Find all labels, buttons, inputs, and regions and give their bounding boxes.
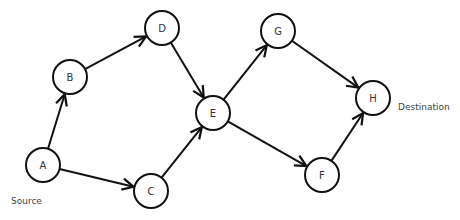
source-label: Source <box>11 196 42 206</box>
svg-text:D: D <box>158 23 166 34</box>
nodes-layer: ABCDEFGH <box>26 11 390 208</box>
svg-text:G: G <box>274 26 282 37</box>
edge-g-h <box>292 41 358 88</box>
node-a: A <box>26 148 60 182</box>
edge-a-b <box>48 94 65 149</box>
edge-e-g <box>224 45 267 100</box>
node-e: E <box>196 96 230 130</box>
edge-d-e <box>171 43 204 98</box>
graph-canvas: ABCDEFGH <box>0 0 460 220</box>
edge-f-h <box>331 113 363 161</box>
node-g: G <box>261 14 295 48</box>
edge-c-e <box>162 127 202 178</box>
edge-e-f <box>228 121 307 166</box>
node-b: B <box>53 60 87 94</box>
node-c: C <box>134 174 168 208</box>
edge-a-c <box>60 169 134 187</box>
node-d: D <box>145 11 179 45</box>
svg-text:C: C <box>148 186 155 197</box>
edge-b-d <box>85 36 146 69</box>
destination-label: Destination <box>398 102 450 112</box>
svg-text:H: H <box>369 93 377 104</box>
svg-text:E: E <box>210 108 216 119</box>
svg-text:A: A <box>40 160 47 171</box>
svg-text:F: F <box>319 170 325 181</box>
node-h: H <box>356 81 390 115</box>
node-f: F <box>305 158 339 192</box>
svg-text:B: B <box>67 72 74 83</box>
